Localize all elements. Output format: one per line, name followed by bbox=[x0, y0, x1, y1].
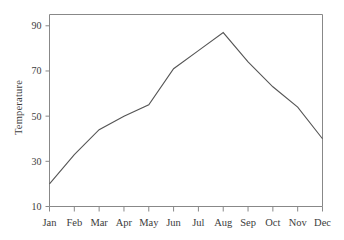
x-tick-label: Feb bbox=[66, 217, 82, 228]
x-tick-label: May bbox=[139, 217, 159, 228]
plot-frame bbox=[50, 15, 323, 207]
y-tick-label: 30 bbox=[32, 156, 42, 167]
x-tick-label: Jul bbox=[192, 217, 204, 228]
plot-area: 1030507090 JanFebMarAprMayJunJulAugSepOc… bbox=[0, 0, 344, 240]
x-tick-label: Dec bbox=[314, 217, 331, 228]
y-tick-label: 50 bbox=[32, 111, 42, 122]
y-axis-ticks: 1030507090 bbox=[32, 20, 50, 212]
x-tick-label: Aug bbox=[214, 217, 233, 228]
axis-frame bbox=[50, 15, 323, 207]
y-tick-label: 70 bbox=[32, 65, 42, 76]
x-tick-label: Mar bbox=[90, 217, 108, 228]
y-tick-label: 90 bbox=[32, 20, 42, 31]
x-tick-label: Jun bbox=[166, 217, 181, 228]
line-chart: Temperature 1030507090 JanFebMarAprMayJu… bbox=[0, 0, 344, 240]
x-tick-label: Jan bbox=[43, 217, 58, 228]
x-tick-label: Apr bbox=[116, 217, 133, 228]
temperature-line bbox=[50, 33, 323, 184]
x-tick-label: Oct bbox=[265, 217, 280, 228]
x-tick-label: Nov bbox=[289, 217, 308, 228]
x-tick-label: Sep bbox=[240, 217, 256, 228]
y-tick-label: 10 bbox=[32, 201, 42, 212]
x-axis-ticks: JanFebMarAprMayJunJulAugSepOctNovDec bbox=[43, 207, 332, 228]
